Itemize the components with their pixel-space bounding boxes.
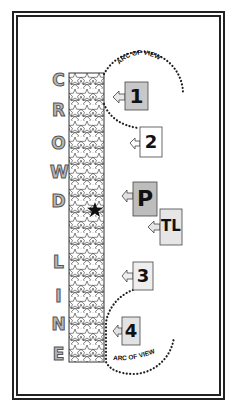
position-tl-label: TL [158, 216, 184, 236]
position-p-label: P [133, 186, 157, 212]
position-1-label: 1 [125, 84, 148, 108]
position-3-label: 3 [133, 265, 153, 287]
position-4-label: 4 [122, 320, 140, 342]
position-2-label: 2 [140, 131, 162, 153]
diagram-canvas: ARC OF VIEW ARC OF VIEW [0, 0, 236, 405]
top-arc-label: ARC OF VIEW [115, 49, 163, 66]
crowd-line-column [69, 73, 104, 362]
bottom-arc-label: ARC OF VIEW [113, 347, 157, 362]
